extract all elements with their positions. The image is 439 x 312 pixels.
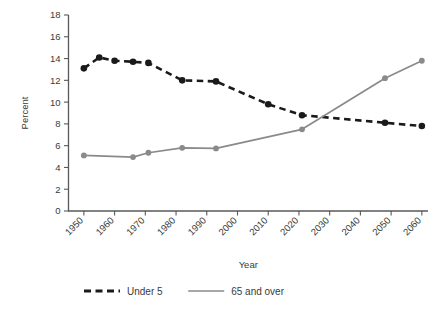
y-axis-title: Percent [19,96,30,129]
x-tick-label: 1960 [93,215,116,238]
x-tick-label: 2030 [308,215,331,238]
x-tick-label: 2040 [339,215,362,238]
data-point [419,58,425,64]
x-tick-group: 1950196019701980199020002010202020302040… [63,211,424,237]
x-tick-label: 2060 [401,215,424,238]
x-tick-label: 2010 [247,215,270,238]
data-point [179,77,186,84]
legend-label-1: Under 5 [127,286,163,297]
data-point [96,54,103,61]
line-chart: 024681012141618 195019601970198019902000… [0,0,439,312]
x-tick-label: 2020 [278,215,301,238]
data-point [81,65,88,72]
legend-label-2: 65 and over [231,286,284,297]
data-point [382,75,388,81]
y-tick-label: 18 [50,9,61,20]
y-tick-label: 8 [55,118,60,129]
data-point [130,59,137,66]
data-point [130,154,136,160]
y-tick-label: 6 [55,140,60,151]
y-tick-label: 2 [55,184,60,195]
data-point [213,145,219,151]
x-tick-label: 2050 [370,215,393,238]
data-point [145,60,152,67]
x-tick-label: 1980 [155,215,178,238]
data-point [145,150,151,156]
legend-group: Under 565 and over [84,286,285,297]
y-tick-label: 0 [55,205,60,216]
y-tick-label: 4 [55,162,60,173]
x-tick-label: 1970 [124,215,147,238]
axes-group [69,15,429,211]
data-point [213,78,220,85]
data-point [382,120,389,127]
series-line-1 [84,57,422,126]
data-point [419,123,426,130]
x-tick-label: 2000 [216,215,239,238]
data-point [111,57,118,64]
series-group [81,54,426,160]
chart-container: 024681012141618 195019601970198019902000… [0,0,439,312]
data-point [81,153,87,159]
y-tick-group: 024681012141618 [50,9,69,216]
data-point [299,126,305,132]
x-tick-label: 1950 [63,215,86,238]
data-point [179,145,185,151]
y-tick-label: 10 [50,97,61,108]
series-line-2 [84,61,422,157]
y-tick-label: 16 [50,31,61,42]
x-tick-label: 1990 [185,215,208,238]
x-axis-title: Year [239,259,258,270]
data-point [265,101,272,108]
axis-lines [69,15,429,211]
y-tick-label: 12 [50,75,61,86]
data-point [299,112,306,119]
y-tick-label: 14 [50,53,61,64]
